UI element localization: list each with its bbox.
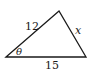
side-label-left: 12 bbox=[25, 20, 39, 33]
triangle-diagram: 12 x 15 θ bbox=[0, 0, 93, 75]
angle-label-theta: θ bbox=[16, 46, 22, 57]
side-label-bottom: 15 bbox=[45, 59, 59, 72]
side-label-right: x bbox=[75, 24, 82, 37]
